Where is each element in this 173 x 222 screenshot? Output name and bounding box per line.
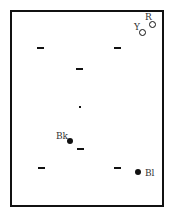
dash-marker bbox=[76, 68, 83, 70]
board-frame bbox=[10, 10, 164, 207]
marker-bl bbox=[135, 169, 141, 175]
dash-marker bbox=[37, 47, 44, 49]
marker-r-label: R bbox=[145, 13, 152, 22]
marker-y bbox=[139, 29, 146, 36]
marker-bl-label: Bl bbox=[145, 169, 155, 178]
marker-r bbox=[149, 21, 156, 28]
marker-y-label: Y bbox=[134, 23, 140, 32]
dash-marker bbox=[114, 167, 121, 169]
dash-marker bbox=[77, 148, 84, 150]
center-dot bbox=[79, 106, 81, 108]
marker-bk-label: Bk bbox=[56, 132, 68, 141]
dash-marker bbox=[38, 167, 45, 169]
dash-marker bbox=[114, 47, 121, 49]
